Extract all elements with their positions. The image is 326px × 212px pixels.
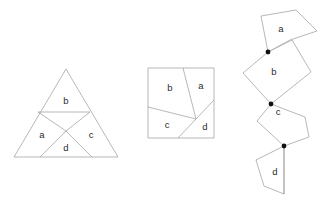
triangle-piece-label-c: c [89,129,94,140]
chain-piece-label-b: b [271,66,276,77]
chain-piece-d [256,146,284,194]
chain-piece-label-d: d [272,166,277,177]
triangle-piece-label-d: d [63,142,68,153]
triangle-piece-label-b: b [63,95,68,106]
chain-piece-label-a: a [278,23,284,34]
chain-joint-1 [266,50,271,55]
square-piece-label-c: c [165,119,170,130]
square-figure: a b c d [148,68,214,138]
chain-piece-c [257,104,309,146]
square-piece-label-d: d [202,121,207,132]
figure-canvas: a b c d a b c d a b c d [0,0,326,212]
chain-piece-label-c: c [276,106,281,117]
triangle-piece-label-a: a [39,129,45,140]
chain-figure: a b c d [243,10,317,194]
square-piece-label-a: a [198,80,204,91]
square-piece-label-b: b [167,82,172,93]
chain-joint-2 [269,102,274,107]
chain-joint-3 [282,144,287,149]
triangle-figure: a b c d [14,69,118,157]
chain-piece-b [243,40,311,104]
